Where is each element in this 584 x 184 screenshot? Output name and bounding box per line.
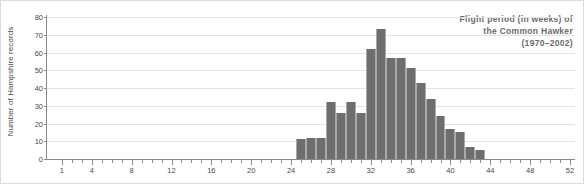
- x-axis-minor-tick-mark: [271, 160, 272, 163]
- x-axis-major-tick-mark: [530, 160, 531, 165]
- x-axis-major-tick-mark: [490, 160, 491, 165]
- x-axis-major-tick-mark: [411, 160, 412, 165]
- bar: [426, 99, 436, 159]
- x-axis-minor-tick-mark: [281, 160, 282, 163]
- x-axis-minor-tick-mark: [221, 160, 222, 163]
- x-axis-minor-tick-mark: [152, 160, 153, 163]
- x-axis-minor-tick-mark: [520, 160, 521, 163]
- x-axis-minor-tick-mark: [72, 160, 73, 163]
- x-axis-tick-label: 20: [247, 166, 255, 175]
- x-axis-minor-tick-mark: [301, 160, 302, 163]
- x-axis-minor-tick-mark: [480, 160, 481, 163]
- x-axis-major-tick-mark: [132, 160, 133, 165]
- x-axis-tick-label: 44: [486, 166, 494, 175]
- x-axis-major-tick-mark: [172, 160, 173, 165]
- x-axis-minor-tick-mark: [142, 160, 143, 163]
- y-axis-tick-label: 80: [35, 13, 43, 22]
- x-axis-minor-tick-mark: [361, 160, 362, 163]
- x-axis-major-tick-mark: [331, 160, 332, 165]
- x-axis-tick-label: 16: [207, 166, 215, 175]
- x-axis-tick-label: 52: [566, 166, 574, 175]
- x-axis-tick-label: 24: [287, 166, 295, 175]
- x-axis-tick-label: 32: [367, 166, 375, 175]
- bar: [336, 113, 346, 159]
- bar: [306, 138, 316, 159]
- x-axis-minor-tick-mark: [321, 160, 322, 163]
- y-axis-tick-label: 70: [35, 30, 43, 39]
- x-axis-minor-tick-mark: [460, 160, 461, 163]
- x-axis-minor-tick-mark: [421, 160, 422, 163]
- y-axis-tick-label: 10: [35, 137, 43, 146]
- x-axis-minor-tick-mark: [261, 160, 262, 163]
- x-axis-minor-tick-mark: [560, 160, 561, 163]
- x-axis-minor-tick-mark: [540, 160, 541, 163]
- x-axis-minor-tick-mark: [112, 160, 113, 163]
- x-axis-major-tick-mark: [450, 160, 451, 165]
- bar: [386, 58, 396, 159]
- x-axis-tick-label: 28: [327, 166, 335, 175]
- x-axis-major-tick-mark: [251, 160, 252, 165]
- bar: [346, 102, 356, 159]
- bar: [376, 29, 386, 159]
- x-axis-minor-tick-mark: [351, 160, 352, 163]
- bar: [296, 139, 306, 159]
- x-axis-minor-tick-mark: [431, 160, 432, 163]
- bar: [406, 68, 416, 159]
- bar: [366, 49, 376, 159]
- x-axis-tick-label: 36: [406, 166, 414, 175]
- x-axis-minor-tick-mark: [401, 160, 402, 163]
- bar: [356, 113, 366, 159]
- x-axis-major-tick-mark: [62, 160, 63, 165]
- bar: [436, 116, 446, 159]
- x-axis-minor-tick-mark: [241, 160, 242, 163]
- y-axis-title: Number of Hampshire records: [3, 1, 19, 161]
- x-axis-minor-tick-mark: [82, 160, 83, 163]
- x-axis-tick-label: 4: [90, 166, 94, 175]
- x-axis-minor-tick-mark: [201, 160, 202, 163]
- y-axis-tick-label: 30: [35, 101, 43, 110]
- bar: [396, 58, 406, 159]
- bar: [445, 129, 455, 159]
- x-axis-minor-tick-mark: [470, 160, 471, 163]
- x-axis-minor-tick-mark: [500, 160, 501, 163]
- y-axis-tick-label: 0: [39, 155, 43, 164]
- y-axis-tick-label: 20: [35, 119, 43, 128]
- x-axis-tick-label: 40: [446, 166, 454, 175]
- x-axis-major-tick-mark: [570, 160, 571, 165]
- x-axis-major-tick-mark: [291, 160, 292, 165]
- x-axis-major-tick-mark: [371, 160, 372, 165]
- x-axis-minor-tick-mark: [191, 160, 192, 163]
- x-axis-tick-label: 1: [60, 166, 64, 175]
- x-axis-minor-tick-mark: [102, 160, 103, 163]
- x-axis-minor-tick-mark: [510, 160, 511, 163]
- x-axis-minor-tick-mark: [391, 160, 392, 163]
- x-axis-minor-tick-mark: [311, 160, 312, 163]
- x-axis-major-tick-mark: [211, 160, 212, 165]
- y-axis-tick-label: 50: [35, 66, 43, 75]
- y-axis-tick-label: 40: [35, 84, 43, 93]
- x-axis-minor-tick-mark: [181, 160, 182, 163]
- bar: [465, 147, 475, 159]
- bar: [316, 138, 326, 159]
- x-axis-minor-tick-mark: [341, 160, 342, 163]
- bar: [416, 83, 426, 159]
- x-axis-minor-tick-mark: [162, 160, 163, 163]
- x-axis-tick-label: 8: [130, 166, 134, 175]
- x-axis-tick-label: 48: [526, 166, 534, 175]
- y-axis-tick-label: 60: [35, 48, 43, 57]
- y-axis-title-text: Number of Hampshire records: [7, 26, 16, 136]
- bar-series: [47, 17, 575, 159]
- bar: [455, 132, 465, 159]
- x-axis-minor-tick-mark: [231, 160, 232, 163]
- chart-figure: Number of Hampshire records Flight perio…: [0, 0, 584, 184]
- plot-area: 01020304050607080 1481216202428323640444…: [47, 17, 575, 159]
- bar: [475, 150, 485, 159]
- x-axis-minor-tick-mark: [122, 160, 123, 163]
- x-axis-tick-label: 12: [167, 166, 175, 175]
- x-axis-minor-tick-mark: [441, 160, 442, 163]
- x-axis-minor-tick-mark: [550, 160, 551, 163]
- bar: [326, 102, 336, 159]
- x-axis-major-tick-mark: [92, 160, 93, 165]
- x-axis-minor-tick-mark: [381, 160, 382, 163]
